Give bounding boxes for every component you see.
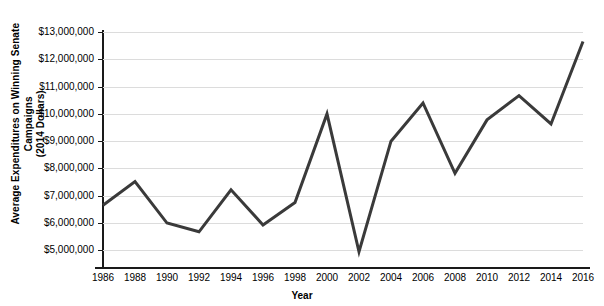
series-line-expenditures [103,32,583,258]
y-tick-label: $12,000,000 [2,54,94,64]
y-tick-label: $9,000,000 [2,136,94,146]
y-tick-label: $7,000,000 [2,191,94,201]
y-tick-label: $8,000,000 [2,163,94,173]
y-tick-label: $6,000,000 [2,218,94,228]
plot-area [103,32,583,258]
x-tick-label: 2016 [563,272,603,283]
y-axis-title: Average Expenditures on Winning Senate C… [10,0,48,249]
y-tick-label: $10,000,000 [2,109,94,119]
y-tick-label: $11,000,000 [2,82,94,92]
y-tick-label: $5,000,000 [2,245,94,255]
x-axis-line [95,267,590,269]
y-axis-title-subtext: (2014 Dollars) [35,90,46,157]
y-tick-label: $13,000,000 [2,27,94,37]
x-axis-title: Year [0,290,604,301]
line-chart: Average Expenditures on Winning Senate C… [0,0,604,306]
